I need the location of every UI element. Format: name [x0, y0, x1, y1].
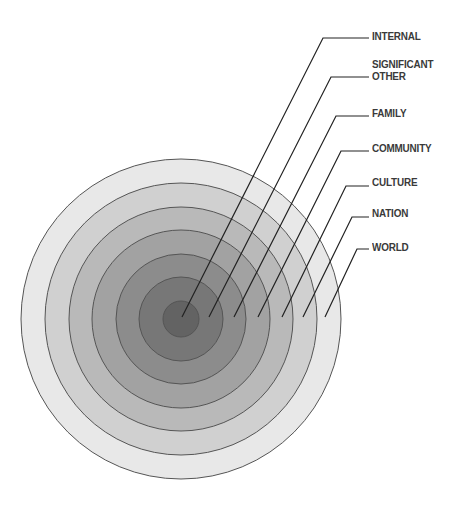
label-significant-other-line2: OTHER — [372, 70, 433, 82]
diagram-canvas: INTERNAL SIGNIFICANT OTHER FAMILY COMMUN… — [0, 0, 465, 513]
label-nation: NATION — [372, 207, 408, 219]
label-community: COMMUNITY — [372, 142, 431, 154]
label-significant-other-line1: SIGNIFICANT — [372, 58, 433, 70]
rings-group — [21, 159, 341, 479]
label-significant-other: SIGNIFICANT OTHER — [372, 58, 433, 82]
ring-internal — [163, 301, 199, 337]
label-culture: CULTURE — [372, 176, 417, 188]
label-world: WORLD — [372, 241, 408, 253]
label-internal: INTERNAL — [372, 30, 421, 42]
label-family: FAMILY — [372, 107, 406, 119]
